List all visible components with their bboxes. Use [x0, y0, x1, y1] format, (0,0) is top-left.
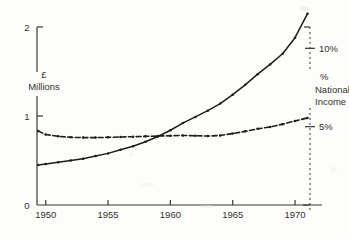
series-1 — [37, 12, 309, 166]
y-tick-label: 2 — [24, 22, 29, 33]
left-axis — [37, 27, 43, 205]
y-tick-label: 0 — [24, 200, 29, 211]
y2-tick-label: 5% — [319, 121, 333, 132]
y-tick-label: 1 — [24, 111, 29, 122]
x-tick-label: 1955 — [97, 209, 118, 220]
data-series-group — [37, 12, 309, 166]
right-axis-title-line2: National — [315, 84, 349, 95]
right-axis-title-line3: Income — [315, 96, 346, 107]
y-tick-labels: 012 — [24, 22, 29, 211]
left-axis-title-line2: Millions — [28, 81, 60, 92]
series-2 — [37, 117, 309, 139]
chart-figure: 19501955196019651970 012 5%10% £ Million… — [0, 0, 349, 239]
x-tick-label: 1965 — [222, 209, 243, 220]
line-chart-plot: 19501955196019651970 012 5%10% £ Million… — [0, 0, 349, 239]
x-tick-label: 1970 — [284, 209, 305, 220]
bottom-axis — [37, 200, 322, 205]
x-tick-label: 1950 — [35, 209, 56, 220]
x-tick-labels: 19501955196019651970 — [35, 209, 305, 220]
x-tick-label: 1960 — [160, 209, 181, 220]
right-axis-title-line1: % — [320, 71, 329, 82]
left-axis-title-line1: £ — [41, 69, 47, 80]
y2-tick-label: 10% — [319, 43, 339, 54]
